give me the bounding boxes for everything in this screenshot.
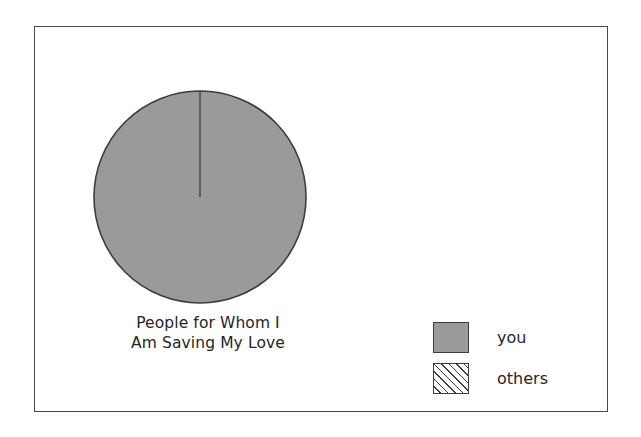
pie-caption: People for Whom I Am Saving My Love bbox=[108, 313, 308, 353]
legend-item-you: you bbox=[433, 320, 583, 354]
legend-label-you: you bbox=[497, 328, 526, 347]
pie-chart: People for Whom I Am Saving My Love you … bbox=[0, 0, 641, 437]
legend: you others bbox=[433, 320, 583, 402]
legend-swatch-solid-gray-icon bbox=[433, 322, 469, 353]
pie-graphic bbox=[88, 85, 312, 309]
legend-item-others: others bbox=[433, 361, 583, 395]
legend-swatch-diagonal-hatch-icon bbox=[433, 363, 469, 394]
legend-label-others: others bbox=[497, 369, 548, 388]
